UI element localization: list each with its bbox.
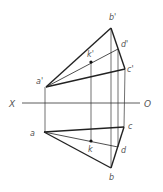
label-a-prime: a' [36, 77, 43, 86]
axis-label-x: X [8, 99, 16, 109]
point-k-prime [89, 60, 92, 63]
axis-label-o: O [144, 99, 151, 109]
label-c: c [128, 122, 133, 131]
top-view [44, 127, 124, 168]
front-view [46, 28, 125, 87]
label-d-prime: d' [121, 40, 128, 49]
label-k: k [88, 145, 93, 154]
projection-lines [45, 28, 125, 168]
label-k-prime: k' [87, 50, 94, 59]
label-d: d [121, 146, 127, 155]
point-k [89, 139, 92, 142]
label-b-prime: b' [109, 13, 116, 22]
label-c-prime: c' [127, 65, 134, 74]
projection-diagram: X O b' d' k' c' a' a c k d b [0, 0, 163, 192]
label-b: b [109, 173, 114, 182]
label-a: a [30, 129, 35, 138]
